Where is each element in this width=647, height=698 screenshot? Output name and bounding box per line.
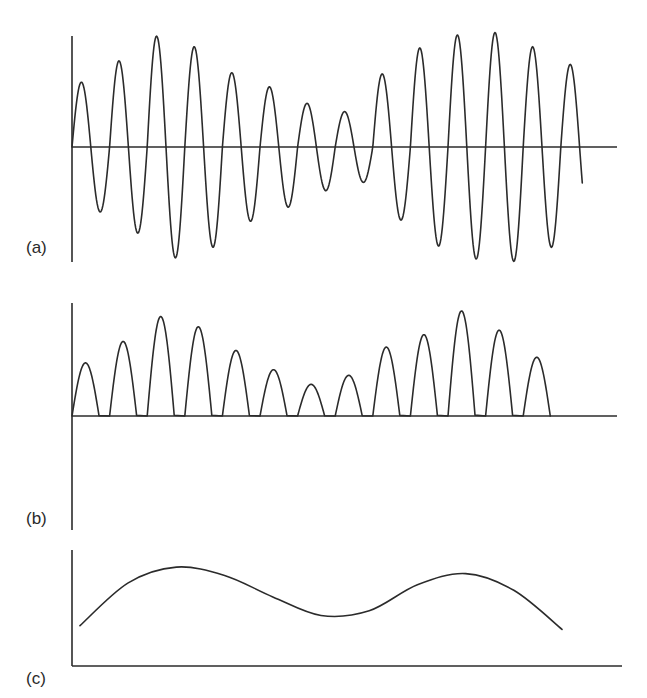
panel-a-label: (a) [26,238,47,257]
panel-c-envelope-signal [80,567,562,629]
panel-a: (a) [26,33,617,262]
panel-c-label: (c) [26,669,46,688]
panel-b-label: (b) [26,509,47,528]
figure: (a) (b) (c) [0,0,647,698]
panel-b: (b) [26,303,617,530]
panel-b-rectified-signal [72,311,550,416]
panel-c: (c) [26,550,622,688]
